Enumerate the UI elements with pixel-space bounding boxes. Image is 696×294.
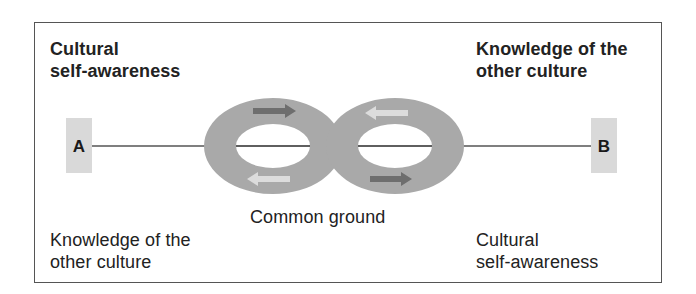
top-right-label: Knowledge of the other culture — [476, 38, 628, 82]
top-left-label: Cultural self-awareness — [50, 38, 180, 82]
center-label: Common ground — [250, 206, 385, 228]
svg-text:A: A — [73, 137, 85, 156]
common-ground-loop — [204, 98, 464, 194]
node-a: A — [66, 118, 92, 173]
bottom-left-label: Knowledge of the other culture — [50, 229, 191, 273]
node-b: B — [591, 118, 617, 173]
bottom-right-label: Cultural self-awareness — [476, 229, 598, 273]
svg-text:B: B — [598, 137, 610, 156]
